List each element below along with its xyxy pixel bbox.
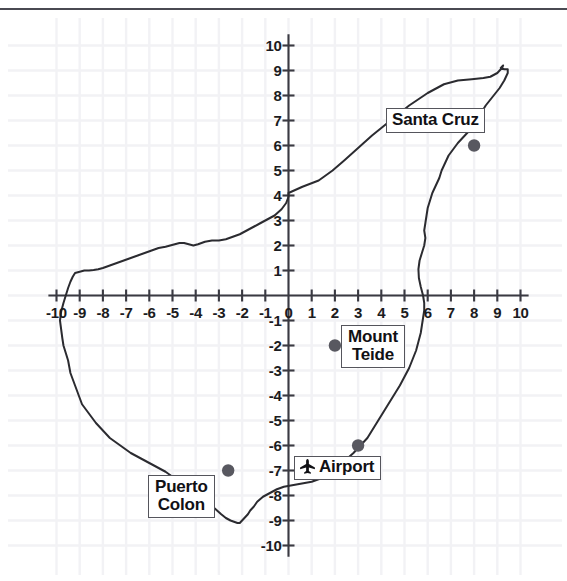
y-axis-label--10: -10 <box>242 537 282 554</box>
mount-teide-text-line1: Mount <box>348 327 398 346</box>
location-marker-dot[interactable] <box>329 339 341 351</box>
puerto-colon-text-line2: Colon <box>155 496 208 514</box>
y-axis-label-2: 2 <box>242 237 282 254</box>
map-label-puerto-colon: Puerto Colon <box>148 475 215 518</box>
y-axis-label--6: -6 <box>242 437 282 454</box>
y-axis-label-1: 1 <box>242 262 282 279</box>
y-axis-label-6: 6 <box>242 137 282 154</box>
location-marker-dot[interactable] <box>222 464 234 476</box>
y-axis-label--1: -1 <box>242 312 282 329</box>
coordinate-plot <box>0 0 567 581</box>
y-axis-label--9: -9 <box>242 512 282 529</box>
y-axis-label-7: 7 <box>242 112 282 129</box>
map-label-santa-cruz: Santa Cruz <box>386 108 485 133</box>
island-map-figure: Santa Cruz Mount Teide Puerto Colon Airp… <box>0 0 567 581</box>
puerto-colon-text-line1: Puerto <box>155 477 208 496</box>
y-axis-label--3: -3 <box>242 362 282 379</box>
y-axis-label-10: 10 <box>242 37 282 54</box>
location-marker-dot[interactable] <box>352 439 364 451</box>
airplane-icon <box>298 458 317 477</box>
y-axis-label-9: 9 <box>242 62 282 79</box>
y-axis-label--5: -5 <box>242 412 282 429</box>
y-axis-label-5: 5 <box>242 162 282 179</box>
y-axis-label--4: -4 <box>242 387 282 404</box>
y-axis-label--2: -2 <box>242 337 282 354</box>
map-label-mount-teide: Mount Teide <box>341 325 405 368</box>
santa-cruz-text: Santa Cruz <box>392 110 479 129</box>
y-axis-label-3: 3 <box>242 212 282 229</box>
y-axis-label--7: -7 <box>242 462 282 479</box>
y-axis-label-4: 4 <box>242 187 282 204</box>
y-axis-label-8: 8 <box>242 87 282 104</box>
location-marker-dot[interactable] <box>468 139 480 151</box>
mount-teide-text-line2: Teide <box>348 346 398 364</box>
airport-text: Airport <box>319 458 374 476</box>
x-axis-label-10: 10 <box>501 304 541 321</box>
map-label-airport: Airport <box>294 456 381 480</box>
y-axis-label--8: -8 <box>242 487 282 504</box>
